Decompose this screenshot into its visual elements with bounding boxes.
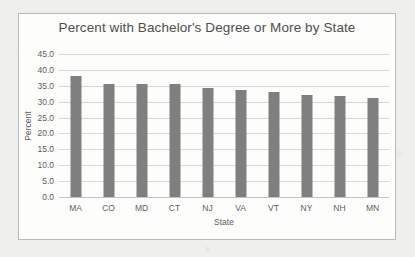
x-axis-tick-label: NY [301, 203, 313, 213]
x-axis-tick-label: NH [333, 203, 345, 213]
y-axis-tick-label: 20.0 [37, 128, 54, 138]
x-axis-tick-label: MA [69, 203, 82, 213]
y-axis-tick-label: 25.0 [37, 113, 54, 123]
x-axis-tick-label: CT [169, 203, 180, 213]
bar-vt [268, 92, 279, 197]
x-axis-title: State [59, 217, 389, 227]
x-axis-tick-label: NJ [202, 203, 212, 213]
x-axis-tick-label: MN [366, 203, 379, 213]
scanned-page-background: Percent with Bachelor's Degree or More b… [0, 0, 415, 257]
y-axis-tick-label: 35.0 [37, 81, 54, 91]
y-axis-tick-label: 0.0 [42, 192, 54, 202]
y-axis-tick-label: 30.0 [37, 97, 54, 107]
bar-ct [169, 84, 180, 197]
y-axis-tick-label: 10.0 [37, 160, 54, 170]
plot-area: 45.040.035.030.025.020.015.010.05.00.0MA… [59, 54, 389, 197]
x-axis-tick-label: VA [235, 203, 246, 213]
gridline: 40.0 [59, 70, 389, 71]
bar-md [136, 84, 147, 197]
y-axis-tick-label: 45.0 [37, 49, 54, 59]
bar-ma [70, 76, 81, 197]
bar-ny [301, 95, 312, 197]
y-axis-tick-label: 15.0 [37, 144, 54, 154]
bar-co [103, 84, 114, 197]
bar-va [235, 90, 246, 197]
y-axis-title: Percent [23, 111, 33, 140]
gridline: 0.0 [59, 197, 389, 198]
x-axis-tick-label: VT [268, 203, 279, 213]
x-axis-tick-label: MD [135, 203, 148, 213]
chart-title: Percent with Bachelor's Degree or More b… [19, 20, 395, 35]
bar-mn [367, 98, 378, 197]
y-axis-tick-label: 5.0 [42, 176, 54, 186]
x-axis-tick-label: CO [102, 203, 115, 213]
bar-nh [334, 96, 345, 197]
y-axis-tick-label: 40.0 [37, 65, 54, 75]
bar-nj [202, 88, 213, 197]
chart-container: Percent with Bachelor's Degree or More b… [18, 13, 396, 240]
gridline: 45.0 [59, 54, 389, 55]
